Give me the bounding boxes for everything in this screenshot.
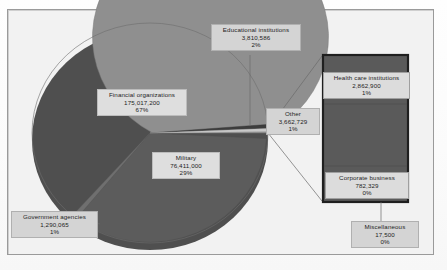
label-corporate-business-value: 782,329 [329, 182, 405, 189]
label-financial-organizations-percent: 67% [101, 106, 183, 113]
chart-canvas: Financial organizations 175,017,200 67% … [0, 0, 447, 270]
label-educational-institutions-name: Educational institutions [215, 26, 297, 33]
label-financial-organizations-name: Financial organizations [101, 91, 183, 98]
label-military-name: Military [156, 154, 216, 161]
label-educational-institutions-value: 3,810,586 [215, 34, 297, 41]
label-miscellaneous-value: 17,500 [355, 231, 415, 238]
label-other: Other 3,662,729 1% [266, 108, 320, 135]
label-military-percent: 29% [156, 169, 216, 176]
label-military: Military 76,411,000 29% [152, 152, 220, 179]
label-health-care-institutions-name: Health care institutions [327, 74, 406, 81]
leader-breakout-bottom [268, 133, 322, 201]
label-military-value: 76,411,000 [156, 162, 216, 169]
label-health-care-institutions: Health care institutions 2,862,900 1% [323, 72, 410, 99]
label-other-name: Other [270, 110, 316, 117]
label-corporate-business-percent: 0% [329, 189, 405, 196]
label-government-agencies-value: 1,290,065 [15, 221, 94, 228]
label-government-agencies: Government agencies 1,290,065 1% [11, 211, 98, 238]
label-health-care-institutions-percent: 1% [327, 89, 406, 96]
label-other-value: 3,662,729 [270, 118, 316, 125]
label-miscellaneous-percent: 0% [355, 238, 415, 245]
label-financial-organizations: Financial organizations 175,017,200 67% [97, 89, 187, 116]
label-other-percent: 1% [270, 125, 316, 132]
label-government-agencies-percent: 1% [15, 228, 94, 235]
label-government-agencies-name: Government agencies [15, 213, 94, 220]
label-corporate-business: Corporate business 782,329 0% [325, 172, 409, 199]
label-educational-institutions-percent: 2% [215, 41, 297, 48]
label-health-care-institutions-value: 2,862,900 [327, 82, 406, 89]
label-miscellaneous-name: Miscellaneous [355, 223, 415, 230]
label-educational-institutions: Educational institutions 3,810,586 2% [211, 24, 301, 51]
label-financial-organizations-value: 175,017,200 [101, 99, 183, 106]
label-miscellaneous: Miscellaneous 17,500 0% [351, 221, 419, 248]
label-corporate-business-name: Corporate business [329, 174, 405, 181]
